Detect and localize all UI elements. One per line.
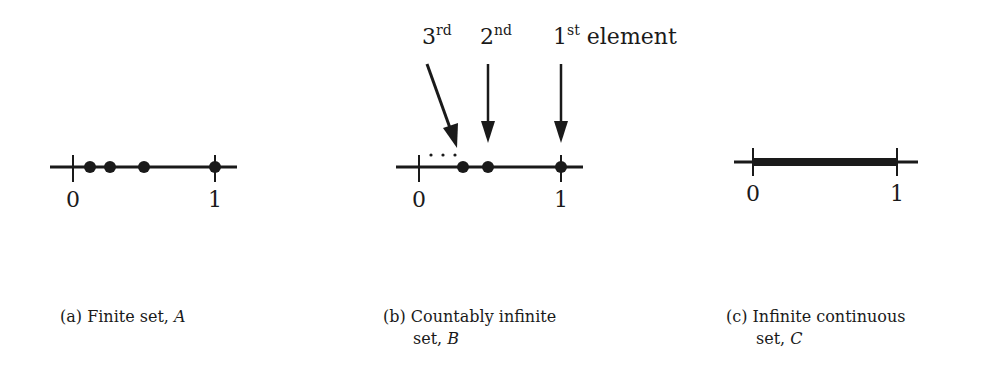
point-icon: [104, 161, 116, 173]
panel-c-number-line: 0 1: [734, 148, 918, 206]
caption-text: Infinite continuous: [753, 307, 906, 326]
caption-variable: B: [447, 329, 459, 348]
point-icon: [457, 161, 469, 173]
point-icon: [555, 161, 567, 173]
caption-line2: set, B: [383, 328, 556, 350]
tick-label-one: 1: [890, 181, 904, 206]
tick-label-one: 1: [208, 187, 222, 212]
caption-line2: set, C: [726, 328, 905, 350]
point-icon: [482, 161, 494, 173]
interval-bar: [753, 158, 897, 166]
caption-text: Countably infinite: [411, 307, 556, 326]
tick-label-one: 1: [554, 187, 568, 212]
arrow-2nd-icon: [481, 64, 495, 143]
arrow-3rd-icon: [427, 64, 458, 148]
tick-label-zero: 0: [746, 181, 760, 206]
point-icon: [84, 161, 96, 173]
point-icon: [209, 161, 221, 173]
arrow-1st-icon: [554, 64, 568, 143]
caption-prefix: (c): [726, 307, 747, 326]
caption-a: (a) Finite set, A: [60, 306, 186, 328]
panel-b-number-line: 0 1 3rd 2nd 1st element: [396, 22, 677, 212]
caption-prefix: (b): [383, 307, 406, 326]
point-icon: [138, 161, 150, 173]
label-2nd: 2nd: [480, 22, 512, 49]
label-1st: 1st element: [553, 22, 677, 49]
caption-b: (b) Countably infinite set, B: [383, 306, 556, 350]
label-3rd: 3rd: [422, 22, 452, 49]
tick-label-zero: 0: [412, 187, 426, 212]
caption-variable: A: [174, 307, 186, 326]
caption-c: (c) Infinite continuous set, C: [726, 306, 905, 350]
panel-a-number-line: 0 1: [50, 155, 237, 212]
caption-prefix: (a): [60, 307, 82, 326]
caption-variable: C: [790, 329, 802, 348]
ellipsis-dots-icon: [429, 153, 456, 156]
caption-text: Finite set,: [87, 307, 169, 326]
tick-label-zero: 0: [66, 187, 80, 212]
